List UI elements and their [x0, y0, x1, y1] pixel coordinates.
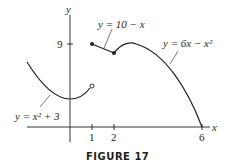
label-6x-minus-x-squared: y = 6x − x² — [162, 37, 213, 49]
leader-right-label — [170, 51, 178, 64]
x-axis-label: x — [211, 121, 217, 133]
curve-x-squared-plus-3 — [27, 62, 90, 99]
closed-endpoint-1-9 — [90, 42, 94, 46]
y-axis-label: y — [65, 3, 71, 15]
label-x-squared-plus-3: y = x² + 3 — [14, 110, 60, 122]
label-10-minus-x: y = 10 − x — [97, 18, 145, 30]
x-tick-label-2: 2 — [111, 131, 117, 143]
y-tick-label-9: 9 — [57, 38, 63, 50]
x-tick-label-6: 6 — [199, 131, 205, 143]
x-tick-label-1: 1 — [89, 131, 95, 143]
piecewise-function-figure: x y 1 2 6 9 y = x² + 3 y = 10 − x y = 6x… — [0, 0, 227, 166]
curve-6x-minus-x-squared — [114, 43, 202, 127]
segment-10-minus-x — [92, 44, 114, 53]
open-endpoint-1-4 — [90, 84, 94, 88]
leader-left-label — [40, 95, 50, 107]
figure-caption: FIGURE 17 — [86, 151, 149, 162]
leader-middle-label — [104, 29, 112, 48]
